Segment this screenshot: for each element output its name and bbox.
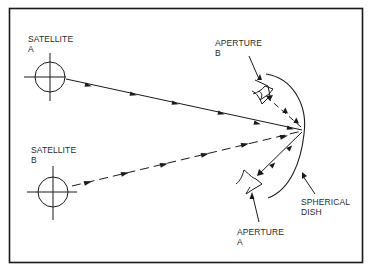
spherical-dish-label: SPHERICAL DISH bbox=[301, 197, 350, 217]
satellite-b-label-line2: B bbox=[31, 155, 76, 165]
satellite-b-label-line1: SATELLITE bbox=[31, 145, 76, 155]
ray-aperture-b-arrows bbox=[266, 95, 301, 126]
aperture-a-pointer-arrowhead bbox=[250, 192, 255, 199]
aperture-b-pointer bbox=[249, 56, 259, 79]
aperture-a-pointer bbox=[253, 197, 259, 222]
satellite-a-icon bbox=[24, 53, 66, 101]
spherical-dish-pointer bbox=[303, 176, 315, 194]
satellite-b-label: SATELLITE B bbox=[31, 145, 76, 165]
ray-b-arrows bbox=[84, 133, 289, 186]
ray-satellite-b bbox=[72, 131, 302, 186]
satellite-a-label-line2: A bbox=[28, 44, 73, 54]
aperture-b-label-line2: B bbox=[215, 48, 262, 58]
aperture-a-label-line1: APERTURE bbox=[237, 227, 284, 237]
satellite-a-label-line1: SATELLITE bbox=[28, 34, 73, 44]
aperture-b-label: APERTURE B bbox=[215, 38, 262, 58]
aperture-b-label-line1: APERTURE bbox=[215, 38, 262, 48]
spherical-dish-label-line1: SPHERICAL bbox=[301, 197, 350, 207]
aperture-b-horn-outline bbox=[252, 80, 270, 104]
satellite-b-icon bbox=[27, 166, 77, 220]
aperture-a-label: APERTURE A bbox=[237, 227, 284, 247]
diagram-canvas: SATELLITE A SATELLITE B APERTURE B APERT… bbox=[0, 0, 369, 270]
aperture-a-label-line2: A bbox=[237, 237, 284, 247]
spherical-dish-label-line2: DISH bbox=[301, 207, 350, 217]
satellite-a-label: SATELLITE A bbox=[28, 34, 73, 54]
